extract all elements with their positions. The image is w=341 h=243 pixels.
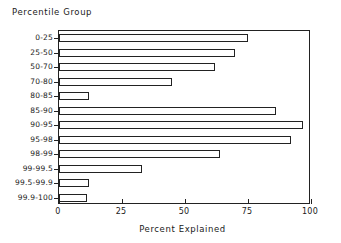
x-axis-title: Percent Explained — [0, 224, 341, 234]
y-tick-label: 70-80 — [30, 76, 53, 85]
y-tick-label: 90-95 — [30, 120, 53, 129]
bar — [59, 107, 276, 115]
y-tick-mark — [54, 140, 59, 141]
x-tick-label: 50 — [179, 207, 190, 216]
y-tick-mark — [54, 82, 59, 83]
x-tick-mark — [311, 199, 312, 204]
x-tick-label: 25 — [116, 207, 127, 216]
bar-row — [59, 75, 309, 90]
bar — [59, 49, 235, 57]
bar-row — [59, 147, 309, 162]
bar-row — [59, 89, 309, 104]
bar — [59, 136, 291, 144]
x-tick-label: 0 — [55, 207, 60, 216]
chart-page: Percentile Group Percent Explained 0-252… — [0, 0, 341, 243]
y-tick-label: 99.5-99.9 — [15, 178, 53, 187]
x-tick-label: 75 — [242, 207, 253, 216]
y-tick-mark — [54, 96, 59, 97]
x-tick-label: 100 — [302, 207, 318, 216]
y-tick-mark — [54, 154, 59, 155]
bar-row — [59, 104, 309, 119]
y-tick-mark — [54, 38, 59, 39]
bar-row — [59, 162, 309, 177]
x-tick-mark — [59, 199, 60, 204]
bar — [59, 194, 87, 202]
bar-row — [59, 191, 309, 206]
bar-row — [59, 60, 309, 75]
bar-row — [59, 176, 309, 191]
y-tick-label: 0-25 — [35, 33, 53, 42]
bar-row — [59, 118, 309, 133]
y-axis-title: Percentile Group — [12, 7, 92, 17]
bar — [59, 150, 220, 158]
y-tick-mark — [54, 67, 59, 68]
y-tick-mark — [54, 169, 59, 170]
bar — [59, 34, 248, 42]
y-tick-label: 99-99.5 — [23, 163, 53, 172]
bar-row — [59, 46, 309, 61]
y-tick-label: 99.9-100 — [18, 192, 53, 201]
bar — [59, 92, 89, 100]
y-tick-label: 95-98 — [30, 134, 53, 143]
bar-row — [59, 133, 309, 148]
bar — [59, 121, 303, 129]
x-tick-mark — [122, 199, 123, 204]
x-tick-mark — [185, 199, 186, 204]
y-tick-label: 98-99 — [30, 149, 53, 158]
y-tick-mark — [54, 183, 59, 184]
y-tick-mark — [54, 53, 59, 54]
y-tick-label: 50-70 — [30, 62, 53, 71]
plot-area — [58, 30, 310, 204]
bar — [59, 179, 89, 187]
bar — [59, 165, 142, 173]
y-tick-label: 25-50 — [30, 47, 53, 56]
bar — [59, 63, 215, 71]
y-tick-label: 85-90 — [30, 105, 53, 114]
y-tick-label: 80-85 — [30, 91, 53, 100]
bar — [59, 78, 172, 86]
y-tick-mark — [54, 125, 59, 126]
bar-row — [59, 31, 309, 46]
y-tick-mark — [54, 111, 59, 112]
x-tick-mark — [248, 199, 249, 204]
